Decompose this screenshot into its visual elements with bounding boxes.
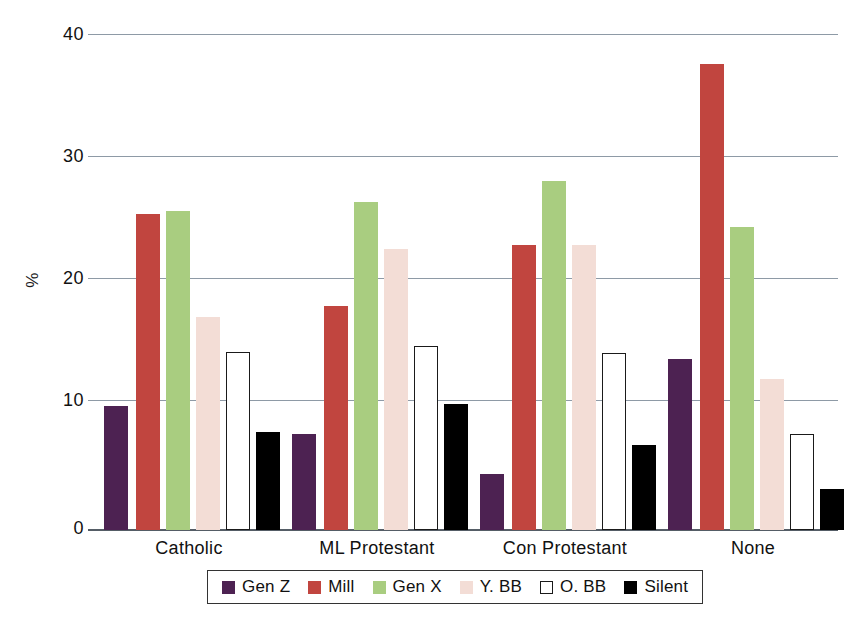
bar-con-protestant-mill[interactable] [512,245,536,530]
legend-label-gen-z: Gen Z [242,577,290,597]
bar-none-y-bb[interactable] [760,379,784,530]
legend-label-y-bb: Y. BB [480,577,522,597]
y-tick-label-40: 40 [42,24,84,45]
plot-area [96,34,838,530]
bar-con-protestant-o-bb[interactable] [602,353,626,530]
legend-swatch-o-bb-icon [540,581,553,594]
bar-group-catholic [104,34,274,530]
y-tick-label-20: 20 [42,268,84,289]
legend-label-gen-x: Gen X [393,577,442,597]
x-tick-label-catholic: Catholic [104,538,274,559]
legend-swatch-silent-icon [624,581,637,594]
legend-swatch-gen-z-icon [222,581,235,594]
bar-ml-protestant-silent[interactable] [444,404,468,530]
legend-item-y-bb[interactable]: Y. BB [460,577,522,597]
bar-con-protestant-y-bb[interactable] [572,245,596,530]
bar-none-mill[interactable] [700,64,724,531]
bar-ml-protestant-y-bb[interactable] [384,249,408,530]
bar-con-protestant-gen-z[interactable] [480,474,504,530]
bar-con-protestant-gen-x[interactable] [542,181,566,530]
x-tick-label-ml-protestant: ML Protestant [292,538,462,559]
bar-ml-protestant-gen-x[interactable] [354,202,378,530]
bar-con-protestant-silent[interactable] [632,445,656,530]
legend-swatch-gen-x-icon [373,581,386,594]
bar-catholic-silent[interactable] [256,432,280,530]
bar-ml-protestant-gen-z[interactable] [292,434,316,531]
bar-ml-protestant-o-bb[interactable] [414,346,438,530]
legend-item-silent[interactable]: Silent [624,577,688,597]
legend-item-mill[interactable]: Mill [308,577,354,597]
bar-catholic-gen-x[interactable] [166,211,190,530]
legend-swatch-mill-icon [308,581,321,594]
legend-item-gen-z[interactable]: Gen Z [222,577,290,597]
legend-swatch-y-bb-icon [460,581,473,594]
bar-catholic-o-bb[interactable] [226,352,250,530]
bar-group-none [668,34,838,530]
bar-none-gen-z[interactable] [668,359,692,530]
legend-label-silent: Silent [644,577,688,597]
bar-catholic-gen-z[interactable] [104,406,128,530]
bar-group-con-protestant [480,34,650,530]
bar-catholic-mill[interactable] [136,214,160,530]
chart-legend: Gen Z Mill Gen X Y. BB O. BB Silent [207,570,703,604]
bar-none-gen-x[interactable] [730,227,754,530]
legend-item-gen-x[interactable]: Gen X [373,577,442,597]
legend-label-mill: Mill [328,577,354,597]
x-tick-label-none: None [668,538,838,559]
bar-none-o-bb[interactable] [790,434,814,531]
bar-catholic-y-bb[interactable] [196,317,220,530]
legend-item-o-bb[interactable]: O. BB [540,577,606,597]
y-tick-label-0: 0 [42,518,84,539]
y-axis-title: % [23,267,43,293]
y-tick-label-30: 30 [42,146,84,167]
y-tick-label-10: 10 [42,390,84,411]
bar-chart: % 40 30 20 10 0 [0,0,854,628]
bar-group-ml-protestant [292,34,462,530]
bar-ml-protestant-mill[interactable] [324,306,348,530]
x-tick-label-con-protestant: Con Protestant [480,538,650,559]
bar-none-silent[interactable] [820,489,844,530]
legend-label-o-bb: O. BB [560,577,606,597]
